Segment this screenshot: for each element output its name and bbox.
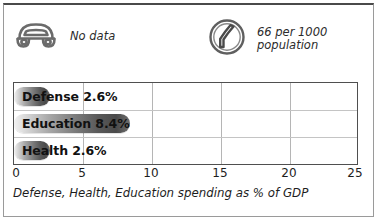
infographic-panel: No data 66 per 1000 population [0,0,377,220]
x-axis-tick: 0 [12,166,20,180]
x-axis-tick: 20 [281,166,296,180]
bar-row: Education 8.4% [14,110,357,137]
bar-chart: Defense 2.6% Education 8.4% Health 2.6% [13,82,358,165]
plot-area: Defense 2.6% Education 8.4% Health 2.6% [13,82,358,165]
legend-item-vehicles: No data [14,18,115,54]
x-axis-tick: 15 [212,166,227,180]
x-axis-tick: 5 [78,166,86,180]
bar-row: Health 2.6% [14,137,357,164]
chart-caption: Defense, Health, Education spending as %… [13,186,365,200]
legend-item-label: No data [70,30,115,43]
bar-label: Health 2.6% [22,137,106,164]
car-icon [14,18,58,54]
legend: No data 66 per 1000 population [10,14,367,72]
x-axis-tick: 25 [347,166,362,180]
x-axis-tick: 10 [143,166,158,180]
legend-item-label: 66 per 1000 population [257,26,327,52]
legend-item-telephones: 66 per 1000 population [206,16,327,62]
bar-label: Defense 2.6% [22,83,117,110]
bar-row: Defense 2.6% [14,83,357,110]
bar-label: Education 8.4% [22,110,130,137]
phone-icon [206,16,248,62]
x-axis: 0 5 10 15 20 25 [13,166,358,182]
